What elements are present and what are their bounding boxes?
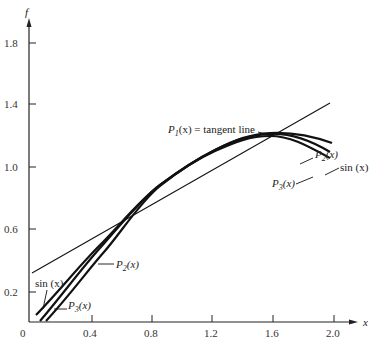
y-tick-1.4: 1.4 xyxy=(4,98,18,110)
p3-left-label: P3(x) xyxy=(67,299,91,314)
origin-label: 0 xyxy=(20,327,26,339)
p3-curve xyxy=(46,136,330,321)
x-axis-label: x xyxy=(362,316,368,328)
sin-left-label: sin (x) xyxy=(35,277,64,290)
p3-right-leader xyxy=(296,177,313,184)
x-tick-0.8: 0.8 xyxy=(144,327,158,339)
y-tick-0.2: 0.2 xyxy=(4,286,18,298)
y-tick-0.6: 0.6 xyxy=(4,223,18,235)
sin-right-leader xyxy=(325,168,339,175)
y-axis-arrow-icon xyxy=(27,18,32,27)
x-tick-1.2: 1.2 xyxy=(204,327,218,339)
x-tick-1.6: 1.6 xyxy=(265,327,279,339)
p2-curve xyxy=(40,133,332,321)
p3-right-label: P3(x) xyxy=(271,177,295,192)
y-axis-label: f xyxy=(25,6,30,18)
x-tick-0.4: 0.4 xyxy=(83,327,97,339)
sin-curve xyxy=(36,134,330,315)
p1-label: P1(x) = tangent line xyxy=(167,123,255,138)
x-axis-arrow-icon xyxy=(349,320,358,325)
p2-right-label: P2(x) xyxy=(314,148,338,163)
p2-right-leader xyxy=(300,158,313,164)
y-ticks xyxy=(29,43,36,292)
x-ticks xyxy=(92,315,334,322)
y-tick-1.8: 1.8 xyxy=(4,37,18,49)
p2-left-label: P2(x) xyxy=(115,258,139,273)
y-tick-1.0: 1.0 xyxy=(4,161,18,173)
taylor-chart: f x 0 1.8 1.4 1.0 0.6 0.2 0.4 0.8 1.2 1.… xyxy=(0,0,387,347)
sin-right-label: sin (x) xyxy=(340,161,369,174)
x-tick-2.0: 2.0 xyxy=(326,327,340,339)
